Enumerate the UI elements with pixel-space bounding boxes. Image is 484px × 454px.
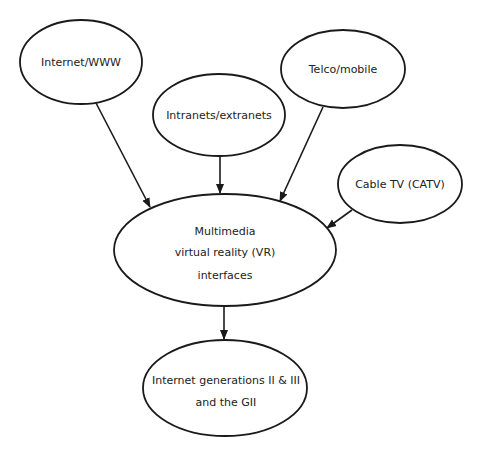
node-intranets-extranets: Intranets/extranets <box>153 74 285 156</box>
node-label-line-1: Multimedia <box>194 225 255 238</box>
node-telco-mobile: Telco/mobile <box>281 30 405 108</box>
node-internet-www: Internet/WWW <box>20 20 142 104</box>
node-label-line-3: interfaces <box>198 269 253 282</box>
arrow-cable-to-multimedia <box>327 210 352 228</box>
node-label: Cable TV (CATV) <box>355 178 445 191</box>
node-label: Internet/WWW <box>41 56 121 69</box>
arrow-internet-to-multimedia <box>96 103 150 207</box>
node-label-line-1: Internet generations II & III <box>152 374 300 387</box>
node-internet-generations-gii: Internet generations II & III and the GI… <box>143 340 307 436</box>
node-multimedia-vr-interfaces: Multimedia virtual reality (VR) interfac… <box>114 194 336 306</box>
node-label: Intranets/extranets <box>166 109 272 122</box>
arrow-telco-to-multimedia <box>280 107 323 201</box>
diagram-canvas: Internet/WWW Intranets/extranets Telco/m… <box>0 0 484 454</box>
node-cable-tv: Cable TV (CATV) <box>338 145 462 223</box>
ellipse-shape <box>143 340 307 436</box>
node-label-line-2: and the GII <box>196 396 257 409</box>
node-label-line-2: virtual reality (VR) <box>175 246 276 259</box>
node-label: Telco/mobile <box>308 63 378 76</box>
